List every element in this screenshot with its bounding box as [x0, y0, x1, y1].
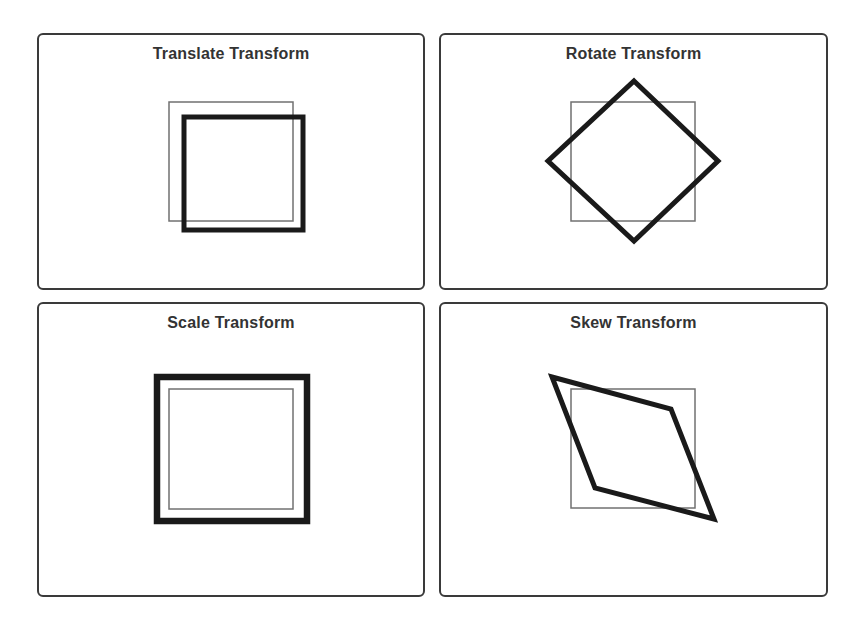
skew-transform-panel: Skew Transform	[439, 302, 828, 597]
scale-transform-panel: Scale Transform	[37, 302, 425, 597]
panel-title: Translate Transform	[39, 45, 423, 63]
translate-transform-panel: Translate Transform	[37, 33, 425, 290]
panel-title: Rotate Transform	[441, 45, 826, 63]
rotate-transform-panel: Rotate Transform	[439, 33, 828, 290]
panel-title: Scale Transform	[39, 314, 423, 332]
panel-title: Skew Transform	[441, 314, 826, 332]
